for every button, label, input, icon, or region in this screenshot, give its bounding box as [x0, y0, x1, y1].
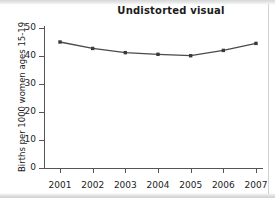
- y-tick-label: 30: [25, 78, 36, 88]
- x-tick-label: 2002: [81, 180, 104, 190]
- y-tick-label: 0: [30, 162, 36, 172]
- x-tick-label: 2003: [114, 180, 137, 190]
- plot-area: 01020304050 2001200220032004200520062007: [44, 28, 262, 168]
- data-series-line: [44, 28, 262, 169]
- y-tick-label: 40: [25, 50, 36, 60]
- x-tick-label: 2006: [212, 180, 235, 190]
- x-tick-label: 2004: [147, 180, 170, 190]
- chart-title-text: Undistorted visual: [37, 5, 224, 16]
- data-point-marker: [91, 47, 94, 50]
- scan-edge-right: [268, 4, 269, 194]
- y-tick-label: 20: [25, 106, 36, 116]
- x-tick-label: 2001: [49, 180, 72, 190]
- x-tick-label: 2007: [245, 180, 268, 190]
- data-point-marker: [124, 51, 127, 54]
- y-tick-label: 50: [25, 22, 36, 32]
- y-axis-title: Births per 1000 women ages 15-19: [17, 22, 27, 172]
- scan-edge-bottom: [0, 193, 275, 198]
- data-point-marker: [58, 40, 61, 43]
- y-tick-label: 10: [25, 134, 36, 144]
- data-point-marker: [189, 54, 192, 57]
- data-point-marker: [222, 49, 225, 52]
- chart-title: Undistorted visual: [0, 5, 262, 16]
- x-tick-label: 2005: [179, 180, 202, 190]
- data-point-marker: [254, 42, 257, 45]
- data-point-marker: [156, 53, 159, 56]
